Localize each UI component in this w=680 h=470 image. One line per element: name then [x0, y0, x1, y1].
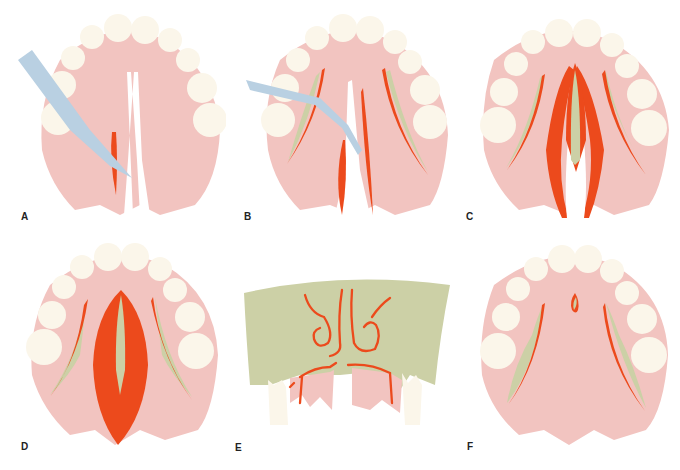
nasal-cavity-bone: [244, 280, 450, 390]
panel-e: E: [230, 235, 456, 470]
tooth-right: [402, 373, 422, 425]
panel-label-e: E: [235, 442, 242, 453]
panel-label-d: D: [21, 441, 28, 452]
panel-c: C: [454, 0, 680, 235]
tooth-left: [268, 380, 288, 425]
panel-label-b: B: [244, 211, 251, 222]
panel-label-f: F: [467, 441, 473, 452]
palate-illustration-b: [230, 0, 456, 235]
panel-b: B: [230, 0, 456, 235]
panel-a: A: [0, 0, 226, 235]
palate-illustration-a: [0, 0, 226, 235]
panel-d: D: [0, 235, 226, 470]
palate-illustration-f: [454, 235, 680, 470]
panel-f: F: [454, 235, 680, 470]
coronal-section-e: [230, 235, 456, 470]
panel-label-a: A: [21, 211, 28, 222]
palate-illustration-c: [454, 0, 680, 235]
panel-label-c: C: [466, 211, 473, 222]
palate-illustration-d: [0, 235, 226, 470]
